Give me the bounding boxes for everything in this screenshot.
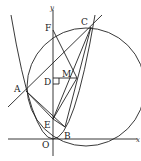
label-b: B	[64, 131, 71, 141]
segment-eb	[53, 119, 65, 127]
y-axis-label: y	[49, 4, 55, 12]
x-axis-label: x	[136, 136, 140, 144]
right-angle-marker	[53, 78, 59, 84]
label-m: M	[62, 69, 71, 79]
label-f: F	[45, 23, 51, 33]
line-ac	[8, 15, 102, 107]
label-a: A	[13, 84, 21, 94]
label-e: E	[44, 120, 51, 130]
label-d: D	[44, 77, 51, 87]
diagram-canvas: y x O F C D M A E B	[0, 0, 141, 161]
label-c: C	[81, 17, 88, 27]
label-o: O	[42, 140, 49, 150]
geometry-diagram: y x O F C D M A E B	[0, 0, 141, 161]
